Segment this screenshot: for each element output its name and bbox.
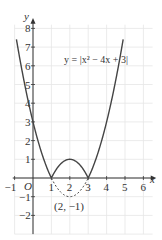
y-axis-arrow-icon	[31, 18, 36, 24]
y-axis-label: y	[23, 10, 29, 22]
y-tick-label: −2	[19, 209, 31, 221]
y-tick-label: 8	[25, 22, 31, 34]
y-tick-label: 2	[25, 135, 31, 147]
x-tick-label: 1	[48, 181, 54, 193]
origin-label: O	[24, 180, 32, 192]
x-tick-label: 6	[140, 181, 146, 193]
x-tick-label: 4	[104, 181, 110, 193]
y-tick-label: −1	[19, 191, 31, 203]
equation-label: y = |x² − 4x + 3|	[64, 54, 128, 65]
x-tick-label: −1	[5, 181, 17, 193]
x-axis-label: x	[149, 173, 155, 185]
y-tick-label: 1	[25, 153, 31, 165]
y-tick-label: 6	[25, 60, 31, 72]
x-tick-label: 5	[122, 181, 128, 193]
vertex-annotation: (2, −1)	[54, 200, 84, 213]
x-tick-label: 2	[67, 181, 73, 193]
y-tick-label: 7	[25, 41, 31, 53]
chart: −1123456−2−112345678 y = |x² − 4x + 3| (…	[0, 0, 162, 240]
y-tick-label: 3	[25, 116, 31, 128]
